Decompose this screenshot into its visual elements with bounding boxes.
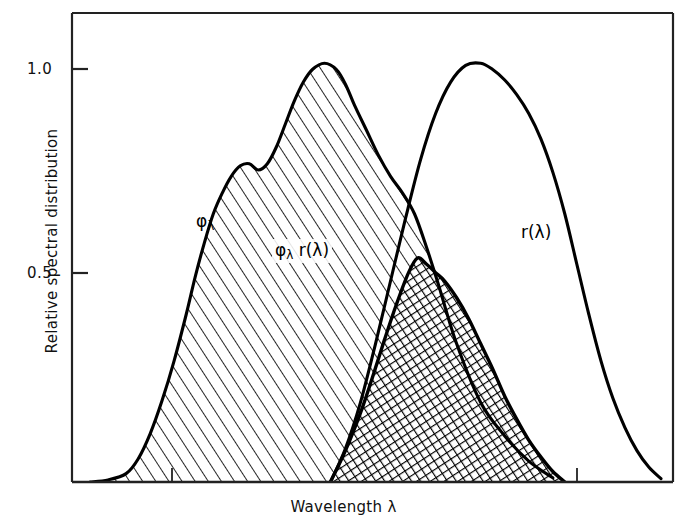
phi-r-product-label: φλ r(λ) xyxy=(272,239,332,263)
product-tail: r(λ) xyxy=(293,240,329,260)
phi-lambda-label: φλ xyxy=(196,211,214,233)
product-phi-symbol: φ xyxy=(275,240,286,260)
y-axis-tick-label-1-0: 1.0 xyxy=(27,60,52,78)
x-axis-title: Wavelength λ xyxy=(0,498,687,516)
spectral-distribution-figure: 1.0 0.5 Relative spectral distribution W… xyxy=(0,0,687,525)
chart-canvas xyxy=(0,0,687,525)
r-lambda-label: r(λ) xyxy=(521,222,551,242)
y-axis-title: Relative spectral distribution xyxy=(43,111,61,371)
phi-symbol: φ xyxy=(196,211,207,231)
phi-subscript: λ xyxy=(207,219,214,233)
